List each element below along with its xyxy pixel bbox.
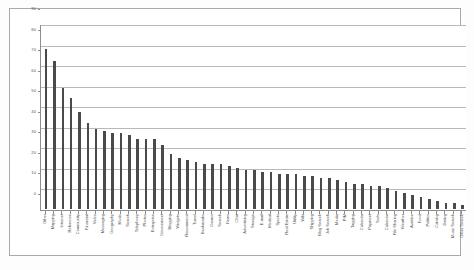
- x-axis-label-slot: Tagging: [349, 214, 357, 260]
- x-axis-label-slot: Games: [208, 214, 216, 260]
- x-axis-tick-label: Blog Search: [318, 214, 322, 236]
- bar: [45, 49, 48, 209]
- y-axis-tick-label: 80: [31, 27, 36, 31]
- bar-slot: [117, 24, 125, 209]
- x-axis-tick-label: Tools: [376, 214, 380, 223]
- bar-slot: [192, 24, 200, 209]
- bar-slot: [134, 24, 142, 209]
- x-axis-tick-label: Aviation: [410, 214, 414, 228]
- bar-slot: [100, 24, 108, 209]
- bar: [395, 191, 398, 210]
- x-axis-tick-label: News: [226, 214, 230, 224]
- bar-slot: [275, 24, 283, 209]
- x-axis-tick-label: Government: [160, 214, 164, 236]
- bar-slot: [259, 24, 267, 209]
- x-axis-tick-label: Music Search: [451, 214, 455, 238]
- bar-slot: [159, 24, 167, 209]
- bar: [62, 88, 65, 209]
- y-axis: 0102030405060708090: [10, 9, 40, 195]
- bar-slot: [242, 24, 250, 209]
- x-axis-label-slot: Messaging: [99, 214, 107, 260]
- bar: [245, 170, 248, 209]
- bar-slot: [234, 24, 242, 209]
- x-axis-tick-label: Catalog: [435, 214, 439, 228]
- bar: [95, 129, 98, 209]
- bar-slot: [309, 24, 317, 209]
- x-axis-label-slot: Real Estate: [283, 214, 291, 260]
- x-axis-tick-label: Advertising: [243, 214, 247, 234]
- x-axis-tick-label: Music: [118, 214, 122, 224]
- x-axis-label-slot: Search: [216, 214, 224, 260]
- x-axis-tick-label: Other: [43, 214, 47, 224]
- bar-slot: [375, 24, 383, 209]
- x-axis-tick-label: Games: [210, 214, 214, 227]
- bar: [136, 139, 139, 209]
- bar: [461, 205, 464, 209]
- bar-slot: [425, 24, 433, 209]
- bar-slot: [317, 24, 325, 209]
- bar: [70, 98, 73, 209]
- x-axis-tick-label: Search: [126, 214, 130, 227]
- x-axis-label-slot: Job Search: [324, 214, 332, 260]
- bar-slot: [67, 24, 75, 209]
- x-axis-label-slot: Other: [41, 214, 49, 260]
- x-axis-tick-label: Bookmarks: [201, 214, 205, 234]
- bar-slot: [417, 24, 425, 209]
- bar: [78, 112, 81, 209]
- bar-slot: [350, 24, 358, 209]
- x-axis-label-slot: Sports: [274, 214, 282, 260]
- y-axis-tick-label: 60: [31, 69, 36, 73]
- bar: [420, 197, 423, 209]
- x-axis-tick-label: Weather: [401, 214, 405, 229]
- bar: [270, 172, 273, 209]
- x-axis-tick-label: Reference: [68, 214, 72, 232]
- bar-slot: [175, 24, 183, 209]
- x-axis-label-slot: Search: [124, 214, 132, 260]
- y-axis-tickmark: [38, 9, 40, 10]
- y-axis-tick-label: 20: [31, 151, 36, 155]
- x-axis-label-slot: PIM: [341, 214, 349, 260]
- y-axis-tick-label: 30: [31, 130, 36, 134]
- x-axis-label-slot: Bookmarks: [199, 214, 207, 260]
- bar-slot: [84, 24, 92, 209]
- x-axis-label-slot: Recommend: [183, 214, 191, 260]
- x-axis-label-slot: Calendar: [382, 214, 390, 260]
- bar-slot: [92, 24, 100, 209]
- bar-slot: [442, 24, 450, 209]
- x-axis-label-slot: Media: [332, 214, 340, 260]
- bar: [228, 166, 231, 209]
- bar: [311, 176, 314, 209]
- bar: [178, 158, 181, 209]
- x-axis-label-slot: Catalog: [432, 214, 440, 260]
- chart-frame: 0102030405060708090 OtherMappingInternet…: [9, 8, 461, 256]
- bar: [145, 139, 148, 209]
- bar: [278, 174, 281, 209]
- bar-slot: [450, 24, 458, 209]
- bar-slot: [75, 24, 83, 209]
- x-axis-label-slot: Music Search: [449, 214, 457, 260]
- bar-slot: [433, 24, 441, 209]
- bar-slot: [250, 24, 258, 209]
- bar-slot: [50, 24, 58, 209]
- bar: [170, 154, 173, 210]
- bar: [103, 131, 106, 209]
- bar-slot: [392, 24, 400, 209]
- x-axis-label-slot: Food: [416, 214, 424, 260]
- x-axis-tick-label: Dating: [443, 214, 447, 226]
- x-axis-label-slot: File Sharing: [391, 214, 399, 260]
- bar-slot: [408, 24, 416, 209]
- x-axis-label-slot: Tools: [374, 214, 382, 260]
- bar: [345, 182, 348, 209]
- x-axis-label-slot: Utility: [291, 214, 299, 260]
- bar: [120, 133, 123, 209]
- x-axis-label-slot: Reference: [66, 214, 74, 260]
- bar-slot: [342, 24, 350, 209]
- x-axis-tick-label: Utility: [293, 214, 297, 224]
- x-axis-label-slot: Shipping: [308, 214, 316, 260]
- x-axis-tick-label: File Sharing: [393, 214, 397, 235]
- x-axis-label-slot: Travel: [191, 214, 199, 260]
- bar: [161, 145, 164, 209]
- x-axis-tick-label: Payment: [368, 214, 372, 230]
- x-axis-tick-label: Storage: [251, 214, 255, 228]
- x-axis-tick-label: Chat: [235, 214, 239, 222]
